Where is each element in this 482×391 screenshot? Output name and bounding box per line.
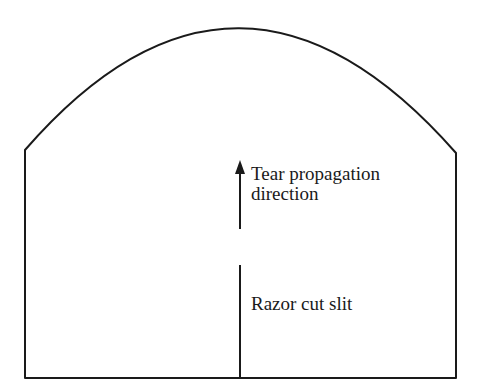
arrow-up-icon	[235, 160, 245, 229]
tear-specimen-diagram: Tear propagation direction Razor cut sli…	[0, 0, 482, 391]
razor-slit-label: Razor cut slit	[251, 293, 353, 314]
tear-direction-label-line2: direction	[251, 183, 319, 204]
tear-direction-label-line1: Tear propagation	[251, 163, 380, 184]
